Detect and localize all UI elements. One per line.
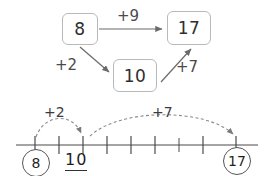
jump-label-plus7: +7: [152, 104, 173, 120]
node-box-17[interactable]: 17: [167, 11, 211, 45]
jump-label-plus2: +2: [44, 104, 65, 120]
arrow-label-plus7: +7: [176, 58, 198, 76]
arrow-plus2: [80, 47, 109, 72]
arrow-label-plus2: +2: [55, 56, 77, 74]
node-box-8[interactable]: 8: [62, 13, 98, 45]
number-line-label-17[interactable]: 17: [223, 147, 251, 175]
arrow-label-plus9: +9: [117, 7, 139, 25]
number-line-label-10[interactable]: 10: [65, 150, 87, 171]
node-box-10[interactable]: 10: [113, 59, 157, 92]
worksheet-canvas: 8 17 10 +9 +2 +7 +2 +7 8 10 17: [0, 0, 268, 176]
jump-arc-plus2: [36, 118, 81, 137]
number-line-label-8[interactable]: 8: [22, 149, 50, 176]
